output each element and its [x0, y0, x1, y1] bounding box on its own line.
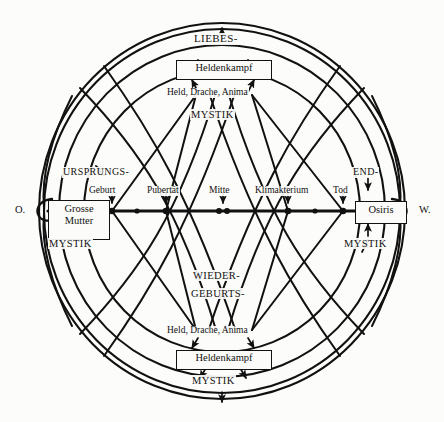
label-end: END-	[352, 167, 379, 178]
axis-label-klimakterium: Klimakterium	[254, 186, 309, 196]
label-mystik-bottom: MYSTIK	[191, 375, 236, 386]
axis-label-tod: Tod	[332, 186, 349, 196]
sweep-curve-br-out	[208, 90, 340, 356]
node-dot-mitte-a	[216, 208, 222, 214]
diagram-canvas: O. W. LIEBES- Heldenkampf Held, Drache, …	[0, 0, 444, 422]
box-grosse-mutter-line1: Grosse	[49, 203, 109, 215]
arrow-hda-top-r	[248, 80, 254, 92]
box-grosse-mutter[interactable]: Grosse Mutter	[48, 200, 110, 240]
node-dot-mid-right	[312, 208, 317, 213]
node-dot-mitte-b	[224, 208, 230, 214]
pole-label-west: W.	[418, 204, 432, 215]
label-geburts: GEBURTS-	[190, 288, 246, 299]
label-mystik-top: MYSTIK	[190, 109, 235, 120]
box-heldenkampf-top[interactable]: Heldenkampf	[176, 60, 272, 80]
box-heldenkampf-bottom[interactable]: Heldenkampf	[176, 350, 272, 370]
pole-label-east: O.	[14, 204, 26, 215]
box-grosse-mutter-line2: Mutter	[49, 215, 109, 227]
label-mystik-right: MYSTIK	[343, 238, 388, 249]
label-held-drache-anima-top: Held, Drache, Anima	[166, 88, 249, 98]
label-liebes: LIEBES-	[193, 33, 239, 45]
box-osiris[interactable]: Osiris	[355, 201, 407, 224]
label-ursprungs: URSPRUNGS-	[62, 167, 130, 178]
label-wieder: WIEDER-	[192, 270, 241, 281]
label-held-drache-anima-bottom: Held, Drache, Anima	[166, 326, 249, 336]
arrow-hda-bottom-r	[248, 338, 254, 348]
axis-label-geburt: Geburt	[88, 186, 116, 196]
arrow-hda-bottom-l	[192, 338, 198, 348]
label-mystik-left: MYSTIK	[48, 238, 93, 249]
axis-label-pubertaet: Pubertät	[146, 186, 180, 196]
node-dot-mid-left	[134, 208, 139, 213]
axis-label-mitte: Mitte	[208, 186, 231, 196]
